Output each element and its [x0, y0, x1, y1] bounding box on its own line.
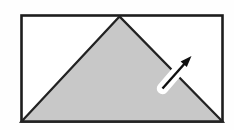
figure-canvas: [0, 0, 234, 130]
geometry-diagram: [0, 0, 234, 130]
